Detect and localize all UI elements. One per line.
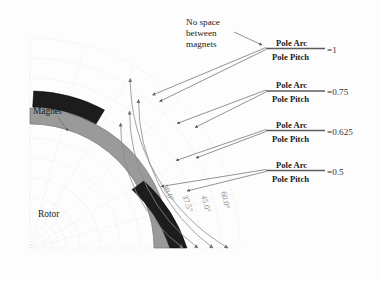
ratio-denominator-0625: Pole Pitch	[272, 134, 309, 144]
ratio-numerator-0625: Pole Arc	[276, 120, 307, 130]
leader-05a	[161, 170, 266, 187]
ratio-label-group-075: Pole Arc Pole Pitch =0.75	[272, 80, 349, 104]
angle-arc-60	[130, 79, 228, 249]
polar-grid	[30, 38, 240, 248]
no-space-note: No space between magnets	[186, 17, 220, 49]
ratio-value-1: =1	[327, 45, 337, 55]
ratio-denominator-05: Pole Pitch	[272, 174, 309, 184]
ratio-numerator-05: Pole Arc	[276, 160, 307, 170]
pole-arc-pitch-figure: 30.0° 37.5° 45.0° 60.0°	[0, 0, 380, 281]
leader-1a	[153, 48, 267, 96]
no-space-line2: between	[186, 28, 217, 38]
ratio-value-05: =0.5	[327, 167, 344, 177]
no-space-line1: No space	[186, 17, 220, 27]
grid-arc	[30, 38, 240, 248]
angle-label-45: 45.0°	[199, 194, 213, 213]
fraction-bars	[266, 49, 325, 171]
leader-075b	[195, 92, 266, 128]
leader-0625b	[196, 132, 266, 159]
ratio-numerator-1: Pole Arc	[276, 38, 307, 48]
ratio-numerator-075: Pole Arc	[276, 80, 307, 90]
ratio-label-group-0625: Pole Arc Pole Pitch =0.625	[272, 120, 353, 144]
ratio-value-0625: =0.625	[327, 127, 353, 137]
rotor-label: Rotor	[38, 209, 60, 219]
magnet-label: Magnet	[33, 106, 62, 116]
no-space-line3: magnets	[186, 39, 217, 49]
leader-05b	[187, 172, 266, 192]
leader-no-space	[234, 32, 262, 45]
angle-labels: 30.0° 37.5° 45.0° 60.0°	[160, 183, 231, 214]
diagram-root: 30.0° 37.5° 45.0° 60.0°	[0, 0, 380, 281]
ratio-label-group-05: Pole Arc Pole Pitch =0.5	[272, 160, 344, 184]
leader-075a	[177, 90, 266, 124]
angle-label-375: 37.5°	[180, 194, 194, 214]
ratio-denominator-075: Pole Pitch	[272, 94, 309, 104]
angle-label-60: 60.0°	[219, 191, 231, 210]
ratio-denominator-1: Pole Pitch	[272, 52, 309, 62]
ratio-label-group-1: Pole Arc Pole Pitch =1	[272, 38, 337, 62]
leader-1b	[160, 50, 267, 102]
ratio-value-075: =0.75	[327, 87, 349, 97]
